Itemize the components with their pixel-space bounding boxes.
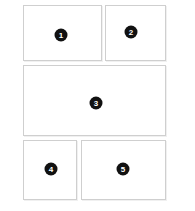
panel-number-badge-1: 1 [55, 29, 68, 42]
panel-number-badge-5: 5 [117, 163, 130, 176]
panel-region-3[interactable]: 3 [23, 65, 166, 136]
panel-number-badge-2: 2 [125, 26, 138, 39]
panel-region-5[interactable]: 5 [81, 140, 166, 200]
panel-number-badge-4: 4 [45, 163, 58, 176]
panel-number-badge-3: 3 [90, 97, 103, 110]
panel-region-1[interactable]: 1 [23, 5, 102, 61]
panel-region-2[interactable]: 2 [105, 5, 166, 61]
panel-region-4[interactable]: 4 [23, 140, 77, 200]
wireframe-canvas: 1 2 3 4 5 [0, 0, 195, 211]
